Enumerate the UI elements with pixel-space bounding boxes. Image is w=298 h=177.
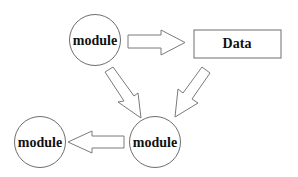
node-module-bottom-left: module — [15, 117, 66, 168]
node-label: Data — [223, 36, 252, 51]
node-module-bottom-right: module — [130, 117, 181, 168]
arrow-module-to-module-diagonal — [105, 67, 141, 118]
node-module-top: module — [70, 15, 121, 66]
node-label: module — [133, 135, 177, 150]
module-data-flow-diagram: module Data module module — [0, 0, 298, 177]
node-label: module — [73, 33, 117, 48]
arrow-data-to-module-diagonal — [175, 67, 210, 117]
arrow-module-to-data — [128, 30, 185, 55]
arrow-module-to-module-left — [68, 131, 124, 153]
node-label: module — [18, 135, 62, 150]
node-data: Data — [194, 30, 281, 58]
